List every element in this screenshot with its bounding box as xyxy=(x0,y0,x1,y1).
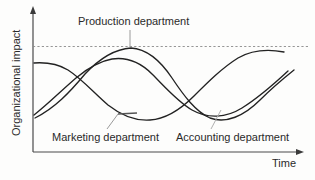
series-line-marketing-department xyxy=(34,50,284,120)
chart-canvas xyxy=(0,0,315,180)
annotation-label-accounting-department: Accounting department xyxy=(176,131,289,143)
series-line-accounting-department xyxy=(34,59,288,117)
y-axis-label: Organizational impact xyxy=(10,32,22,136)
x-axis-label: Time xyxy=(272,157,296,169)
annotation-label-production-department: Production department xyxy=(78,15,189,27)
annotation-label-marketing-department: Marketing department xyxy=(52,131,159,143)
leader-tick-marketing xyxy=(118,113,137,114)
leader-stem-marketing xyxy=(107,114,118,129)
leader-line-marketing xyxy=(107,113,137,129)
x-axis-arrow-icon xyxy=(296,149,304,155)
chart-figure: Production department Marketing departme… xyxy=(0,0,315,180)
y-axis xyxy=(30,6,36,152)
y-axis-arrow-icon xyxy=(30,6,36,14)
series-line-production-department xyxy=(35,48,294,120)
x-axis xyxy=(33,149,304,155)
